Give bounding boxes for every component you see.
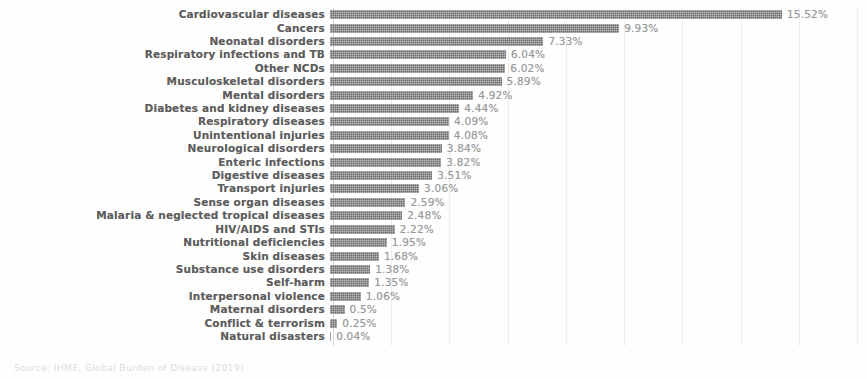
category-label: Interpersonal violence [0,291,330,302]
bar[interactable] [330,198,405,207]
bar-row[interactable]: Cancers9.93% [0,21,867,34]
bar[interactable] [330,64,505,73]
bar-row[interactable]: Diabetes and kidney diseases4.44% [0,102,867,115]
bar[interactable] [330,91,473,100]
category-label: Transport injuries [0,183,330,194]
bar-value-label: 4.09% [449,116,488,127]
bar-row[interactable]: Enteric infections3.82% [0,155,867,168]
category-label: Conflict & terrorism [0,318,330,329]
bar[interactable] [330,305,345,314]
bar-row[interactable]: Transport injuries3.06% [0,182,867,195]
bar-area: 0.04% [330,330,867,343]
category-label: Diabetes and kidney diseases [0,103,330,114]
category-label: Mental disorders [0,90,330,101]
bar-row[interactable]: Interpersonal violence1.06% [0,290,867,303]
bar-value-label: 3.06% [419,183,458,194]
bar-area: 1.38% [330,263,867,276]
bar[interactable] [330,117,449,126]
bar-area: 0.5% [330,303,867,316]
bar-value-label: 9.93% [619,23,658,34]
category-label: Neurological disorders [0,143,330,154]
bar-row[interactable]: Nutritional deficiencies1.95% [0,236,867,249]
bar-row[interactable]: Natural disasters0.04% [0,330,867,343]
bar[interactable] [330,131,449,140]
bar[interactable] [330,144,442,153]
bar[interactable] [330,252,379,261]
bar[interactable] [330,158,441,167]
bar-rows: Cardiovascular diseases15.52%Cancers9.93… [0,8,867,343]
bar-value-label: 1.38% [370,264,409,275]
bar-area: 3.06% [330,182,867,195]
bar-area: 4.08% [330,129,867,142]
bar-value-label: 15.52% [782,9,828,20]
category-label: Skin diseases [0,251,330,262]
bar-row[interactable]: Malaria & neglected tropical diseases2.4… [0,209,867,222]
category-label: Substance use disorders [0,264,330,275]
bar-area: 2.48% [330,209,867,222]
bar-value-label: 4.92% [473,90,512,101]
chart-page: Cardiovascular diseases15.52%Cancers9.93… [0,0,867,379]
bar[interactable] [330,211,402,220]
bar[interactable] [330,37,543,46]
bar-value-label: 2.59% [405,197,444,208]
bar-row[interactable]: Respiratory infections and TB6.04% [0,48,867,61]
bar-area: 4.92% [330,88,867,101]
bar[interactable] [330,292,361,301]
bar-value-label: 1.06% [361,291,400,302]
bar-value-label: 2.22% [395,224,434,235]
bar-row[interactable]: Self-harm1.35% [0,276,867,289]
horizontal-bar-chart: Cardiovascular diseases15.52%Cancers9.93… [0,0,867,348]
category-label: Other NCDs [0,63,330,74]
bar-row[interactable]: Maternal disorders0.5% [0,303,867,316]
bar[interactable] [330,238,387,247]
bar-area: 1.35% [330,276,867,289]
category-label: Cardiovascular diseases [0,9,330,20]
bar-value-label: 3.82% [441,157,480,168]
bar-row[interactable]: Conflict & terrorism0.25% [0,316,867,329]
bar-row[interactable]: Substance use disorders1.38% [0,263,867,276]
bar[interactable] [330,50,506,59]
category-label: HIV/AIDS and STIs [0,224,330,235]
bar-value-label: 1.35% [369,277,408,288]
bar[interactable] [330,278,369,287]
bar-row[interactable]: Cardiovascular diseases15.52% [0,8,867,21]
category-label: Nutritional deficiencies [0,237,330,248]
bar[interactable] [330,10,782,19]
source-note: Source: IHME, Global Burden of Disease (… [14,363,244,374]
bar-area: 6.04% [330,48,867,61]
bar-row[interactable]: Musculoskeletal disorders5.89% [0,75,867,88]
bar-value-label: 6.04% [506,49,545,60]
bar-area: 0.25% [330,316,867,329]
bar-row[interactable]: Unintentional injuries4.08% [0,129,867,142]
bar-area: 4.44% [330,102,867,115]
bar-row[interactable]: Neurological disorders3.84% [0,142,867,155]
bar-area: 9.93% [330,21,867,34]
bar-row[interactable]: HIV/AIDS and STIs2.22% [0,223,867,236]
bar[interactable] [330,24,619,33]
bar[interactable] [330,77,502,86]
bar-row[interactable]: Skin diseases1.68% [0,249,867,262]
bar-value-label: 1.95% [387,237,426,248]
bar-row[interactable]: Digestive diseases3.51% [0,169,867,182]
bar[interactable] [330,265,370,274]
bar[interactable] [330,225,395,234]
bar-area: 3.84% [330,142,867,155]
bar-value-label: 6.02% [505,63,544,74]
category-label: Musculoskeletal disorders [0,76,330,87]
bar-row[interactable]: Mental disorders4.92% [0,88,867,101]
bar-value-label: 3.84% [442,143,481,154]
bar[interactable] [330,184,419,193]
bar[interactable] [330,319,337,328]
bar-row[interactable]: Respiratory diseases4.09% [0,115,867,128]
bar-area: 3.51% [330,169,867,182]
bar-row[interactable]: Other NCDs6.02% [0,62,867,75]
bar-value-label: 2.48% [402,210,441,221]
category-label: Maternal disorders [0,304,330,315]
category-label: Respiratory diseases [0,116,330,127]
category-label: Self-harm [0,277,330,288]
bar[interactable] [330,171,432,180]
bar[interactable] [330,104,459,113]
bar-value-label: 0.25% [337,318,376,329]
bar-row[interactable]: Sense organ diseases2.59% [0,196,867,209]
bar-row[interactable]: Neonatal disorders7.33% [0,35,867,48]
